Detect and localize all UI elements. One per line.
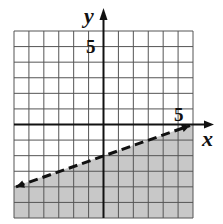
inequality-graph: y x 5 5	[0, 0, 223, 224]
y-tick-label: 5	[86, 36, 96, 57]
x-axis-label: x	[201, 126, 213, 151]
x-tick-label: 5	[174, 104, 184, 125]
y-axis-label: y	[81, 3, 94, 28]
